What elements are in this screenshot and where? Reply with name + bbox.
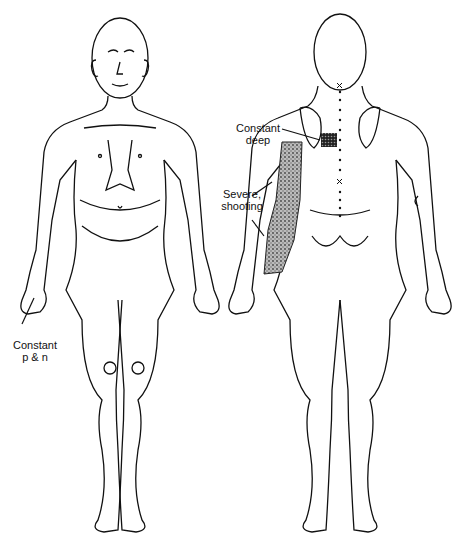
label-constant-deep: Constant deep <box>228 122 288 146</box>
constant-deep-region <box>321 133 337 147</box>
label-line: p & n <box>5 351 65 363</box>
spine-x-marks <box>337 83 342 184</box>
label-line: Severe, <box>212 188 272 200</box>
label-line: deep <box>228 134 288 146</box>
spine-dots <box>339 91 341 217</box>
label-constant-pn: Constant p & n <box>5 339 65 363</box>
label-line: Constant <box>228 122 288 134</box>
label-line: shooting <box>212 200 272 212</box>
body-chart <box>0 0 456 543</box>
label-severe-shooting: Severe, shooting <box>212 188 272 212</box>
label-line: Constant <box>5 339 65 351</box>
anterior-figure <box>21 18 219 532</box>
